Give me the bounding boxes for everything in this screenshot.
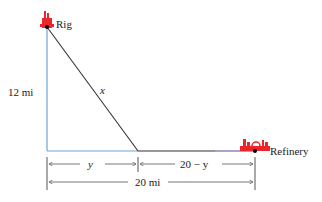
refinery-label: Refinery [270,145,308,157]
segment-y-label: y [88,158,93,170]
hypotenuse-line [47,27,138,151]
hypotenuse-label: x [100,84,105,96]
segment-remaining-label: 20 − y [180,158,208,170]
rig-label: Rig [56,18,72,30]
diagram-canvas [0,0,322,202]
total-distance-label: 20 mi [135,176,160,188]
refinery-icon [240,139,270,153]
vertical-distance-label: 12 mi [8,86,33,98]
rig-icon [40,11,54,29]
